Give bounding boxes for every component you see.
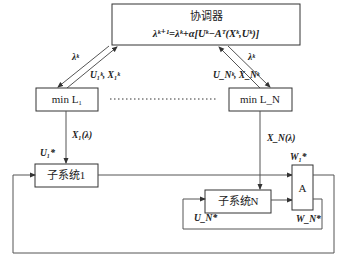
lambda-label-1: λᵏ [71, 52, 80, 62]
w1-label: W₁* [290, 152, 307, 162]
min-l1-label: min L₁ [52, 93, 83, 105]
x1-label: X₁(λ) [71, 130, 92, 141]
coordinator-block: 协调器 λᵏ⁺¹=λᵏ+α[Uᵏ−Aᵀ(Xᵏ,Uᵏ)] [112, 4, 300, 45]
xn-label: X_N(λ) [266, 133, 296, 144]
u1-label: U₁* [40, 148, 55, 158]
lambda-label-n: λᵏ [247, 52, 256, 62]
local-problem-1: min L₁ [36, 88, 98, 111]
subsystem-n-label: 子系统N [218, 195, 259, 207]
coordinator-equation: λᵏ⁺¹=λᵏ+α[Uᵏ−Aᵀ(Xᵏ,Uᵏ)] [152, 28, 260, 40]
a-label: A [299, 182, 307, 194]
subsystem-1-label: 子系统1 [47, 169, 86, 181]
local-problem-n: min L_N [229, 88, 292, 111]
interconnection-block: A [292, 165, 313, 210]
ux-label-n: U_Nᵏ, X_Nᵏ [213, 70, 261, 80]
lambda-down-arrow-1 [58, 46, 109, 87]
decomposition-coordination-diagram: 协调器 λᵏ⁺¹=λᵏ+α[Uᵏ−Aᵀ(Xᵏ,Uᵏ)] λᵏ U₁ᵏ, X₁ᵏ … [0, 0, 345, 265]
ux-label-1: U₁ᵏ, X₁ᵏ [90, 70, 121, 80]
subsystem-1: 子系统1 [35, 164, 98, 187]
link-coordinator-l1: λᵏ U₁ᵏ, X₁ᵏ [58, 46, 121, 88]
subsystem-n: 子系统N [205, 190, 271, 213]
un-label: U_N* [194, 213, 217, 223]
wn-label: W_N* [296, 214, 321, 224]
coordinator-title: 协调器 [190, 9, 223, 22]
link-coordinator-ln: λᵏ U_Nᵏ, X_Nᵏ [213, 46, 270, 88]
min-ln-label: min L_N [240, 93, 280, 105]
